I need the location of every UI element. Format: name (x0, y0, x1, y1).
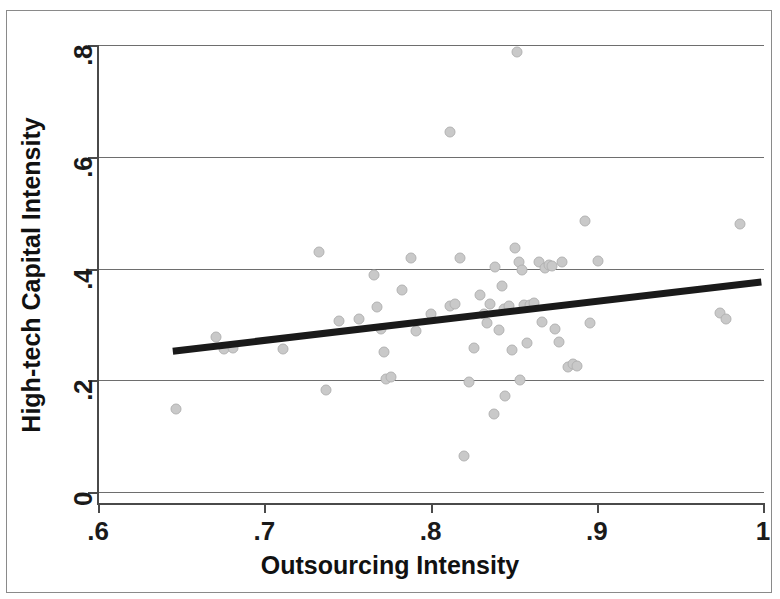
gridline-y-.2 (98, 380, 764, 381)
y-tick-label-.2: .2 (69, 380, 100, 401)
scatter-point (556, 257, 567, 268)
y-tick-label-.6: .6 (69, 157, 100, 178)
scatter-point (368, 269, 379, 280)
scatter-point (455, 253, 466, 264)
gridline-y-.8 (98, 45, 764, 46)
scatter-point (334, 316, 345, 327)
scatter-point (721, 313, 732, 324)
y-tick-label-0: 0 (69, 492, 100, 506)
gridline-y-0 (98, 492, 764, 493)
scatter-point (410, 326, 421, 337)
scatter-point (405, 252, 416, 263)
scatter-point (511, 46, 522, 57)
scatter-point (463, 377, 474, 388)
scatter-point (496, 281, 507, 292)
scatter-point (510, 243, 521, 254)
scatter-point (734, 218, 745, 229)
x-axis-title: Outsourcing Intensity (0, 551, 780, 580)
scatter-point (516, 264, 527, 275)
x-tick-label-.6: .6 (87, 516, 109, 547)
scatter-point (490, 262, 501, 273)
scatter-point (375, 323, 386, 334)
scatter-point (528, 298, 539, 309)
y-tick-label-.4: .4 (69, 269, 100, 290)
scatter-point (536, 316, 547, 327)
scatter-point (475, 290, 486, 301)
y-tick-label-.8: .8 (69, 45, 100, 66)
scatter-point (227, 342, 238, 353)
scatter-point (320, 385, 331, 396)
scatter-point (277, 343, 288, 354)
scatter-point (521, 338, 532, 349)
scatter-point (506, 344, 517, 355)
scatter-point (503, 301, 514, 312)
scatter-point (493, 324, 504, 335)
scatter-point (425, 309, 436, 320)
scatter-point (314, 246, 325, 257)
scatter-plot-figure: 0.2.4.6.8 .6.7.8.91 High-tech Capital In… (0, 0, 780, 599)
x-tick-.8 (431, 503, 433, 513)
scatter-point (378, 346, 389, 357)
x-tick-.7 (264, 503, 266, 513)
scatter-point (593, 256, 604, 267)
scatter-point (550, 323, 561, 334)
gridline-y-.6 (98, 157, 764, 158)
figure-border (6, 10, 772, 593)
x-tick-label-.8: .8 (420, 516, 442, 547)
x-tick-label-.7: .7 (253, 516, 275, 547)
x-tick-.6 (98, 503, 100, 513)
scatter-point (354, 314, 365, 325)
gridline-y-.4 (98, 269, 764, 270)
x-tick-1 (763, 503, 765, 513)
scatter-point (458, 450, 469, 461)
x-axis-title-text: Outsourcing Intensity (261, 551, 519, 579)
scatter-point (553, 337, 564, 348)
scatter-point (482, 317, 493, 328)
x-tick-.9 (597, 503, 599, 513)
scatter-point (171, 404, 182, 415)
x-tick-label-1: 1 (756, 516, 770, 547)
scatter-point (211, 332, 222, 343)
y-axis-title-text: High-tech Capital Intensity (17, 117, 46, 432)
scatter-point (445, 126, 456, 137)
scatter-point (585, 318, 596, 329)
scatter-point (397, 285, 408, 296)
scatter-point (372, 302, 383, 313)
y-axis-title: High-tech Capital Intensity (14, 45, 48, 504)
scatter-point (450, 298, 461, 309)
x-tick-label-.9: .9 (586, 516, 608, 547)
scatter-point (468, 342, 479, 353)
scatter-point (488, 408, 499, 419)
scatter-point (385, 372, 396, 383)
scatter-point (571, 360, 582, 371)
scatter-point (500, 390, 511, 401)
scatter-point (515, 375, 526, 386)
scatter-point (580, 216, 591, 227)
scatter-point (485, 298, 496, 309)
